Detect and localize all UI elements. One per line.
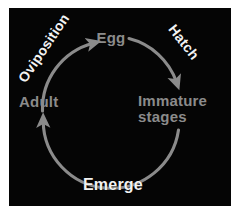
stage-label-egg: Egg (88, 30, 134, 46)
stage-label-immature-stages: Immature stages (138, 93, 212, 125)
arc-egg-to-immature (129, 39, 177, 83)
life-cycle-diagram-screenshot: Egg Immature stages Adult Oviposition Ha… (0, 0, 231, 211)
stage-label-adult: Adult (19, 94, 81, 110)
diagram-panel: Egg Immature stages Adult Oviposition Ha… (9, 8, 231, 206)
process-label-emerge: Emerge (83, 176, 143, 194)
